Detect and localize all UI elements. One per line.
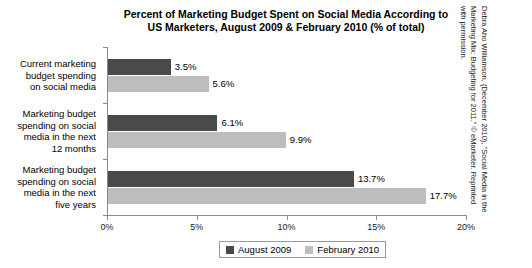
category-label-line: budget spending (0, 70, 96, 82)
y-tick-mark (103, 215, 107, 216)
category-label-line: media in the next (0, 187, 96, 199)
x-tick-label: 15% (367, 222, 385, 232)
category-label-line: spending on social (0, 176, 96, 188)
bar-february-2010 (108, 188, 426, 204)
legend-swatch-icon-february-2010 (305, 246, 313, 254)
legend-label-february-2010: February 2010 (317, 244, 379, 255)
bar-value-label: 6.1% (221, 115, 243, 131)
chart-title-line-1: Percent of Marketing Budget Spent on Soc… (96, 8, 476, 21)
category-axis-labels: Current marketingbudget spendingon socia… (0, 47, 100, 215)
x-tick-mark (376, 215, 377, 220)
x-tick-mark (107, 215, 108, 220)
bar-august-2009 (108, 115, 217, 131)
bar-august-2009 (108, 59, 171, 75)
y-tick-mark (103, 159, 107, 160)
x-tick-mark (287, 215, 288, 220)
x-tick-label: 5% (190, 222, 203, 232)
bar-august-2009 (108, 171, 354, 187)
y-tick-mark (103, 103, 107, 104)
legend-swatch-icon-august-2009 (226, 246, 234, 254)
legend-label-august-2009: August 2009 (238, 244, 291, 255)
chart-title-line-2: US Marketers, August 2009 & February 201… (96, 21, 476, 34)
bar-february-2010 (108, 76, 209, 92)
legend-item-february-2010: February 2010 (305, 244, 379, 255)
x-tick-mark (197, 215, 198, 220)
source-note-line: Marketing Mix: Budgeting for 2011." © eM… (468, 6, 479, 268)
category-label-line: 12 months (0, 143, 96, 155)
category-label-line: five years (0, 199, 96, 211)
category-label-line: Marketing budget (0, 108, 96, 120)
legend-item-august-2009: August 2009 (226, 244, 291, 255)
source-note-line: Debra Aho Williamson, (December 2010), "… (479, 6, 490, 268)
category-label-line: spending on social (0, 120, 96, 132)
source-attribution-note: Debra Aho Williamson, (December 2010), "… (449, 0, 489, 268)
bar-value-label: 5.6% (213, 76, 235, 92)
category-label-line: on social media (0, 81, 96, 93)
x-tick-label: 0% (100, 222, 113, 232)
chart-screenshot: Percent of Marketing Budget Spent on Soc… (0, 0, 532, 268)
category-label-line: Marketing budget (0, 164, 96, 176)
bar-value-label: 13.7% (358, 171, 385, 187)
chart-legend: August 2009 February 2010 (219, 241, 386, 258)
bar-february-2010 (108, 132, 286, 148)
category-label-next-12-months: Marketing budgetspending on socialmedia … (0, 108, 96, 154)
y-tick-mark (103, 47, 107, 48)
category-label-next-five-years: Marketing budgetspending on socialmedia … (0, 164, 96, 210)
source-note-line: with permission. (458, 6, 469, 268)
plot-area: 0%5%10%15%20% 3.5%6.1%13.7%5.6%9.9%17.7% (107, 47, 466, 215)
category-label-line: Current marketing (0, 58, 96, 70)
x-tick-label: 10% (277, 222, 295, 232)
category-label-current-spending: Current marketingbudget spendingon socia… (0, 58, 96, 93)
bar-value-label: 9.9% (290, 132, 312, 148)
chart-title: Percent of Marketing Budget Spent on Soc… (96, 8, 476, 34)
category-label-line: media in the next (0, 131, 96, 143)
bar-value-label: 3.5% (175, 59, 197, 75)
